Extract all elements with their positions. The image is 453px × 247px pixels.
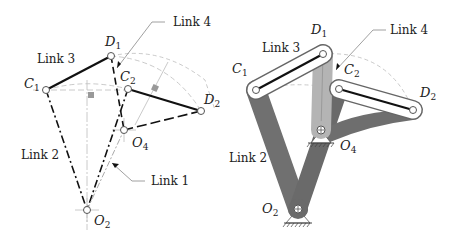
label-O4: O4 <box>132 135 149 152</box>
label-O4: O4 <box>340 138 357 155</box>
label-O2: O2 <box>262 201 278 218</box>
label-C2: C2 <box>344 62 360 79</box>
link3-position2 <box>128 89 201 111</box>
pivot-D2 <box>198 108 205 115</box>
label-link3: Link 3 <box>37 52 75 66</box>
label-C2: C2 <box>120 69 136 86</box>
link2-position2 <box>87 89 128 210</box>
arrow-link4-right <box>336 63 340 70</box>
pivot-C2 <box>125 86 132 93</box>
label-D2: D2 <box>203 92 220 109</box>
pivot-C1 <box>43 87 50 94</box>
label-D1: D1 <box>310 22 327 39</box>
label-link4: Link 4 <box>173 15 212 29</box>
four-bar-linkage-figure: Link 3 Link 4 Link 2 Link 1 C1 D1 C2 D2 … <box>0 0 453 247</box>
arrow-link1 <box>112 163 119 168</box>
right-panel-rendered: Link 3 Link 4 Link 2 C1 D1 C2 D2 O4 O2 <box>229 22 436 227</box>
arrow-link4 <box>117 61 121 68</box>
pivot-O2 <box>84 207 91 214</box>
right-angle-mark <box>151 84 159 92</box>
label-link3: Link 3 <box>262 41 300 55</box>
label-link1: Link 1 <box>151 174 189 188</box>
link4-position2 <box>124 111 201 130</box>
label-link2: Link 2 <box>229 151 267 165</box>
right-angle-mark <box>88 92 94 98</box>
pivot-O4 <box>121 127 128 134</box>
pivot-D1 <box>108 53 115 60</box>
label-link4: Link 4 <box>390 23 429 37</box>
label-O2: O2 <box>94 213 110 230</box>
label-link2: Link 2 <box>21 148 59 162</box>
label-C1: C1 <box>232 61 248 78</box>
left-panel-skeleton: Link 3 Link 4 Link 2 Link 1 C1 D1 C2 D2 … <box>21 15 220 230</box>
link3-position2-body <box>339 89 413 110</box>
label-C1: C1 <box>24 76 40 93</box>
link1-ground <box>87 130 124 210</box>
label-D2: D2 <box>419 85 436 102</box>
label-D1: D1 <box>104 34 121 51</box>
